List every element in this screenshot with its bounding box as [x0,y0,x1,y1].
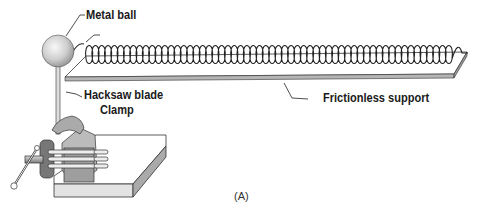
label-metal-ball: Metal ball [86,9,136,21]
frictionless-support [65,52,467,81]
label-frictionless-support: Frictionless support [323,92,429,104]
label-hacksaw-blade: Hacksaw blade [84,89,163,101]
metal-ball [42,35,74,67]
figure-caption: (A) [234,191,249,202]
label-clamp: Clamp [100,104,134,116]
